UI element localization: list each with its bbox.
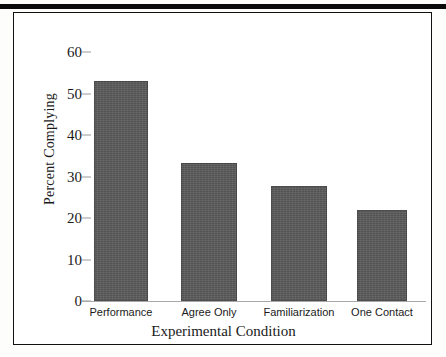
bar [181,163,237,301]
bar [94,81,148,301]
scanned-page: Percent Complying 0102030405060 Performa… [0,0,446,357]
bar [357,210,407,301]
bar-series [14,13,433,346]
page-top-rule [0,4,446,9]
x-axis-title: Experimental Condition [14,323,433,340]
figure-bounding-box: Percent Complying 0102030405060 Performa… [13,12,432,345]
bar-chart: Percent Complying 0102030405060 Performa… [14,13,433,346]
x-axis-tick-label: One Contact [322,306,442,318]
bar [271,186,327,301]
